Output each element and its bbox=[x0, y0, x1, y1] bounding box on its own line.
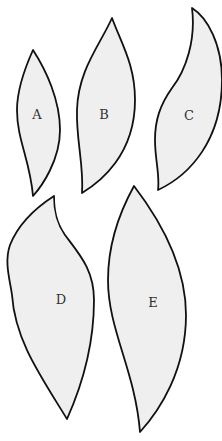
shape-d: D bbox=[7, 196, 94, 419]
shape-e: E bbox=[108, 186, 186, 432]
shape-b: B bbox=[77, 18, 135, 193]
shape-c: C bbox=[155, 8, 222, 190]
shape-b-outline bbox=[77, 18, 135, 193]
leaf-shapes-diagram: A B C D E bbox=[0, 0, 222, 441]
shape-c-outline bbox=[155, 8, 222, 190]
shape-a-label: A bbox=[31, 107, 42, 122]
shape-e-label: E bbox=[148, 295, 158, 310]
shape-b-label: B bbox=[99, 107, 109, 122]
shape-a: A bbox=[17, 50, 60, 196]
shape-a-outline bbox=[17, 50, 60, 196]
shape-c-label: C bbox=[184, 108, 194, 123]
shape-e-outline bbox=[108, 186, 186, 432]
shape-d-label: D bbox=[56, 292, 66, 307]
shape-d-outline bbox=[7, 196, 94, 419]
